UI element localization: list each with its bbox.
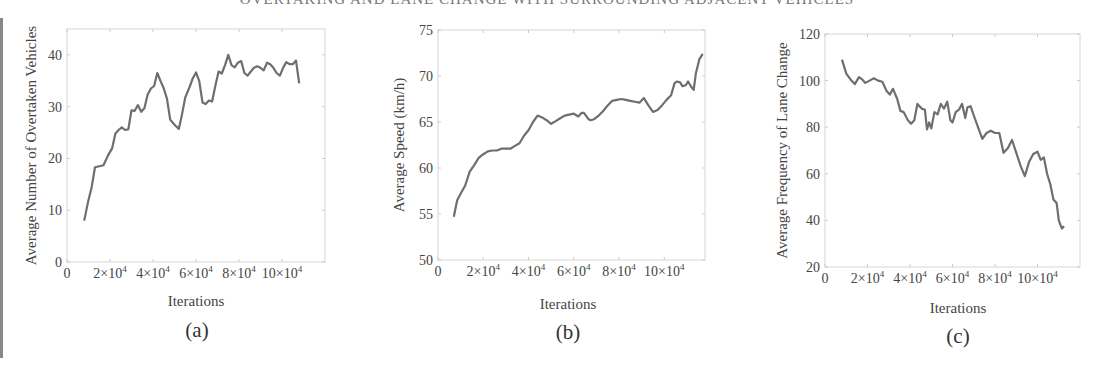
chart-c-caption: (c) <box>928 324 988 349</box>
data-series-line <box>842 60 1064 229</box>
plot-frame <box>825 34 1080 267</box>
x-tick-label: 6×104 <box>936 269 970 286</box>
x-tick-label: 10×104 <box>1017 269 1058 286</box>
y-tick-label: 60 <box>806 167 820 182</box>
x-tick-label: 8×104 <box>978 269 1012 286</box>
y-tick-label: 40 <box>806 213 820 228</box>
x-tick-label: 2×104 <box>851 269 885 286</box>
y-tick-label: 80 <box>806 120 820 135</box>
chart-c-xlabel: Iterations <box>898 300 1018 317</box>
y-tick-label: 120 <box>799 27 820 42</box>
x-tick-label: 4×104 <box>893 269 927 286</box>
chart-panel-c: 2040608010012002×1044×1046×1048×10410×10… <box>0 0 1094 370</box>
x-tick-label: 0 <box>822 271 829 286</box>
y-tick-label: 20 <box>806 260 820 275</box>
y-tick-label: 100 <box>799 74 820 89</box>
y-axis-title: Average Frequency of Lane Change <box>774 42 790 259</box>
